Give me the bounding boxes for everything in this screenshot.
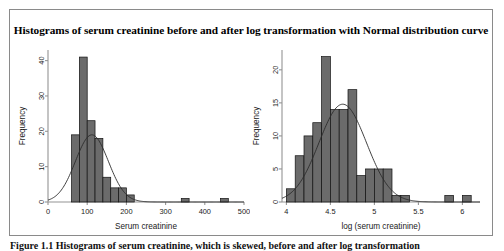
y-tick-label: 30 (37, 92, 46, 100)
x-tick-label: 400 (199, 207, 211, 216)
x-tick-label: 5 (372, 207, 376, 216)
chart-panel-log-serum-creatinine: 0510152044.555.56log (serum creatinine)F… (248, 42, 490, 232)
x-tick-label: 0 (46, 207, 50, 216)
histogram-bar (339, 109, 348, 202)
histogram-bar (462, 195, 471, 202)
y-tick-label: 20 (37, 127, 46, 135)
histogram-bar (330, 109, 339, 202)
histogram-bar (87, 121, 95, 202)
histogram-bar (445, 195, 454, 202)
y-tick-label: 20 (271, 66, 280, 74)
figure-container: Histograms of serum creatinine before an… (9, 9, 493, 236)
y-axis-title: Frequency (252, 106, 261, 146)
histogram-bar (357, 176, 366, 202)
histogram-bar (374, 169, 383, 202)
histogram-bar (181, 198, 189, 202)
histogram-bar (95, 138, 103, 202)
y-tick-label: 40 (37, 56, 46, 64)
x-tick-label: 5.5 (413, 207, 423, 216)
histogram-bar (103, 177, 111, 202)
histogram-bar (220, 198, 228, 202)
histogram-bar (322, 57, 331, 202)
histogram-bar (79, 57, 87, 202)
x-tick-label: 200 (120, 207, 132, 216)
x-tick-label: 6 (460, 207, 464, 216)
histogram-bar (313, 123, 322, 202)
y-axis-title: Frequency (18, 106, 27, 146)
log-serum-creatinine-histogram: 0510152044.555.56log (serum creatinine)F… (248, 42, 490, 232)
histogram-bar (366, 169, 375, 202)
x-tick-label: 4 (284, 207, 288, 216)
y-tick-label: 5 (271, 167, 280, 171)
chart-panel-serum-creatinine: 0102030400100200300400500Serum creatinin… (14, 42, 250, 232)
y-tick-label: 10 (37, 163, 46, 171)
histogram-bar (348, 90, 357, 202)
serum-creatinine-histogram: 0102030400100200300400500Serum creatinin… (14, 42, 250, 232)
y-tick-label: 0 (37, 200, 46, 204)
x-tick-label: 300 (159, 207, 171, 216)
histogram-bar (111, 188, 119, 202)
y-tick-label: 10 (271, 132, 280, 140)
figure-caption: Figure 1.1 Histograms of serum creatinin… (10, 240, 490, 251)
x-axis-title: log (serum creatinine) (341, 222, 420, 231)
histogram-bar (304, 136, 313, 202)
y-tick-label: 15 (271, 99, 280, 107)
figure-title: Histograms of serum creatinine before an… (10, 24, 492, 36)
x-tick-label: 4.5 (325, 207, 335, 216)
x-axis-title: Serum creatinine (115, 222, 177, 231)
x-tick-label: 100 (81, 207, 93, 216)
y-tick-label: 0 (271, 200, 280, 204)
